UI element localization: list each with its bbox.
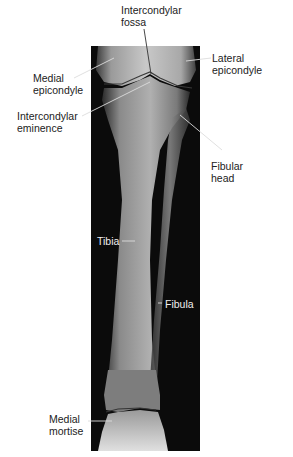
label-intercondylar-eminence: Intercondylar eminence (17, 110, 78, 134)
label-line: Fibular (211, 160, 243, 172)
label-medial-mortise: Medial mortise (49, 413, 83, 437)
label-line: head (211, 172, 243, 184)
label-medial-epicondyle: Medial epicondyle (33, 72, 83, 96)
label-line: Lateral (212, 52, 262, 64)
label-line: Intercondylar (17, 110, 78, 122)
label-line: fossa (121, 16, 182, 28)
label-intercondylar-fossa: Intercondylar fossa (121, 4, 182, 28)
label-lateral-epicondyle: Lateral epicondyle (212, 52, 262, 76)
label-line: eminence (17, 122, 78, 134)
label-line: Tibia (97, 235, 119, 247)
xray-figure: Intercondylar fossa Lateral epicondyle M… (0, 0, 293, 457)
label-line: Fibula (165, 298, 194, 310)
label-line: Intercondylar (121, 4, 182, 16)
label-line: mortise (49, 425, 83, 437)
label-fibula: Fibula (165, 298, 194, 310)
label-fibular-head: Fibular head (211, 160, 243, 184)
label-line: Medial (49, 413, 83, 425)
label-tibia: Tibia (97, 235, 119, 247)
label-line: epicondyle (212, 64, 262, 76)
label-line: Medial (33, 72, 83, 84)
label-line: epicondyle (33, 84, 83, 96)
